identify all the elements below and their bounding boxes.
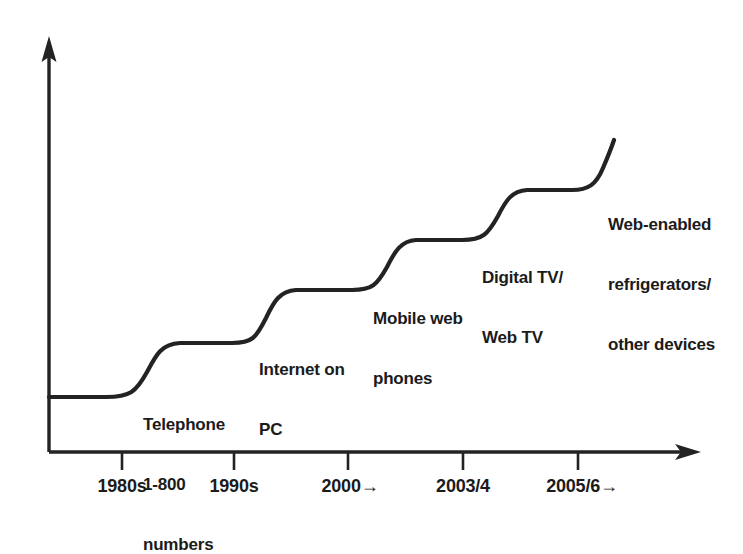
annotation-internet-on-pc: Internet on PC — [259, 320, 345, 480]
annotation-mobile-web-phones: Mobile web phones — [373, 269, 463, 429]
annotation-telephone: Telephone 1-800 numbers — [143, 375, 225, 554]
x-tick-label-1990s: 1990s — [209, 476, 258, 497]
annotation-telephone-line-1: Telephone — [143, 415, 225, 435]
annotation-web-enabled-devices: Web-enabled refrigerators/ other devices — [608, 175, 715, 395]
x-tick-label-2000: 2000→ — [321, 476, 378, 497]
x-tick-label-2003-4: 2003/4 — [436, 476, 490, 497]
annotation-internet-on-pc-line-2: PC — [259, 420, 345, 440]
annotation-digital-tv-web-tv-line-1: Digital TV/ — [482, 268, 563, 288]
annotation-internet-on-pc-line-1: Internet on — [259, 360, 345, 380]
annotation-web-enabled-devices-line-3: other devices — [608, 335, 715, 355]
annotation-digital-tv-web-tv: Digital TV/ Web TV — [482, 228, 563, 388]
x-tick-label-1980s: 1980s — [97, 476, 146, 497]
annotation-web-enabled-devices-line-2: refrigerators/ — [608, 275, 715, 295]
x-tick-label-2005-6: 2005/6→ — [546, 476, 618, 497]
y-axis — [42, 36, 57, 452]
annotation-web-enabled-devices-line-1: Web-enabled — [608, 215, 715, 235]
annotation-telephone-line-3: numbers — [143, 535, 225, 554]
annotation-mobile-web-phones-line-1: Mobile web — [373, 309, 463, 329]
annotation-mobile-web-phones-line-2: phones — [373, 369, 463, 389]
annotation-digital-tv-web-tv-line-2: Web TV — [482, 328, 563, 348]
